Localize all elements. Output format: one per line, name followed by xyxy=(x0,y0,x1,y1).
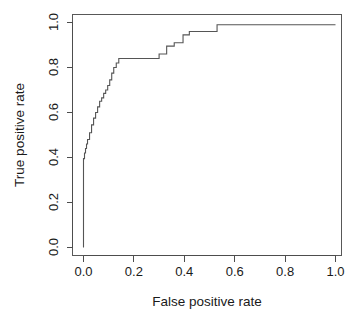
x-tick-label-5: 1.0 xyxy=(326,264,344,279)
x-axis-title: False positive rate xyxy=(152,294,262,309)
y-tick-label-3: 0.6 xyxy=(46,103,61,121)
y-tick-label-4: 0.8 xyxy=(46,58,61,76)
x-tick-label-2: 0.4 xyxy=(175,264,193,279)
x-tick-label-4: 0.8 xyxy=(276,264,294,279)
y-tick-label-1: 0.2 xyxy=(46,193,61,211)
x-tick-label-3: 0.6 xyxy=(226,264,244,279)
y-tick-label-0: 0.0 xyxy=(46,238,61,256)
y-tick-label-2: 0.4 xyxy=(46,148,61,166)
x-tick-label-1: 0.2 xyxy=(125,264,143,279)
roc-chart-svg: 0.0 0.2 0.4 0.6 0.8 1.0 0.0 0.2 0.4 0.6 … xyxy=(0,0,360,323)
x-tick-label-0: 0.0 xyxy=(74,264,92,279)
y-tick-label-5: 1.0 xyxy=(46,13,61,31)
y-axis-title: True positive rate xyxy=(12,83,27,187)
roc-plot-figure: 0.0 0.2 0.4 0.6 0.8 1.0 0.0 0.2 0.4 0.6 … xyxy=(0,0,360,323)
